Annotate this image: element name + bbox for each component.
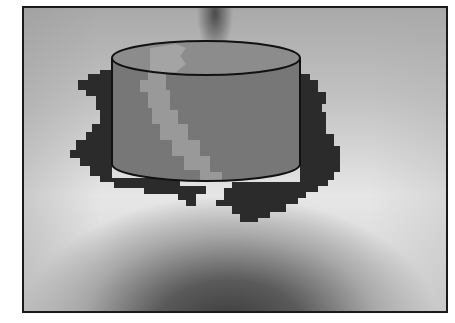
cylinder — [112, 41, 300, 181]
figure-graphic — [0, 0, 455, 323]
